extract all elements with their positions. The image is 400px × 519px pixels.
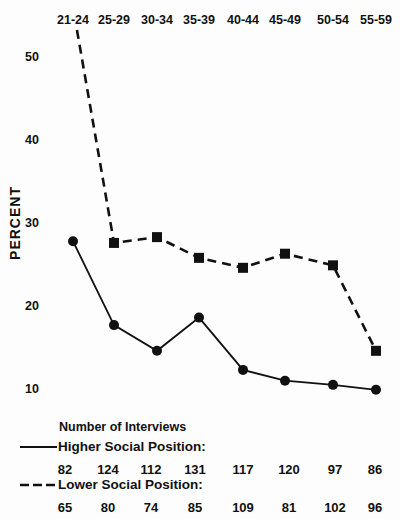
interview-count: 117 (233, 462, 254, 477)
x-tick-label: 55-59 (360, 13, 392, 27)
y-tick-label: 20 (25, 299, 39, 313)
higher-social-position-point (109, 320, 119, 330)
interview-count: 109 (232, 500, 254, 515)
interview-count: 81 (282, 500, 296, 515)
lower-social-position-point (238, 263, 248, 273)
interview-count: 96 (368, 500, 382, 515)
x-tick-label: 45-49 (269, 13, 301, 27)
x-tick-label: 30-34 (141, 13, 173, 27)
lower-social-position-point (109, 238, 119, 248)
legend-label-higher-social-position: Higher Social Position: (58, 439, 206, 454)
x-tick-label: 40-44 (227, 13, 259, 27)
y-tick-label: 10 (25, 382, 39, 396)
x-tick-label: 50-54 (317, 13, 349, 27)
higher-social-position-point (371, 385, 381, 395)
x-tick-labels: 21-2425-2930-3435-3940-4445-4950-5455-59 (57, 13, 392, 27)
interview-count: 112 (141, 462, 162, 477)
x-tick-label: 25-29 (98, 13, 130, 27)
legend-title: Number of Interviews (59, 420, 186, 434)
interview-count: 131 (184, 462, 206, 477)
interview-count: 80 (101, 500, 115, 515)
y-tick-labels: 1020304050 (25, 50, 39, 396)
interview-count: 86 (368, 462, 382, 477)
higher-social-position-point (152, 346, 162, 356)
series-lines (68, 30, 381, 395)
higher-social-position-point (68, 236, 78, 246)
legend: Number of Interviews Higher Social Posit… (20, 420, 382, 515)
interview-count: 97 (328, 462, 342, 477)
y-tick-label: 30 (25, 216, 39, 230)
interview-count: 102 (324, 500, 346, 515)
higher-social-position-point (280, 376, 290, 386)
x-tick-label: 21-24 (57, 13, 89, 27)
y-tick-label: 50 (25, 50, 39, 64)
interview-count: 124 (97, 462, 119, 477)
interview-count: 85 (188, 500, 202, 515)
lower-social-position-point (194, 253, 204, 263)
interview-count: 120 (278, 462, 300, 477)
lower-social-position-line (77, 30, 376, 351)
higher-social-position-point (194, 313, 204, 323)
higher-social-position-point (328, 380, 338, 390)
interview-count: 74 (144, 500, 159, 515)
y-axis-label: PERCENT (7, 186, 23, 260)
legend-label-lower-social-position: Lower Social Position: (58, 477, 203, 492)
interview-count: 82 (58, 462, 72, 477)
lower-social-position-point (152, 232, 162, 242)
lower-social-position-point (371, 346, 381, 356)
higher-social-position-point (238, 365, 248, 375)
y-tick-label: 40 (25, 133, 39, 147)
line-chart: 21-2425-2930-3435-3940-4445-4950-5455-59… (0, 0, 400, 519)
x-tick-label: 35-39 (183, 13, 215, 27)
lower-social-position-point (328, 260, 338, 270)
interview-count: 65 (58, 500, 72, 515)
lower-social-position-point (280, 249, 290, 259)
